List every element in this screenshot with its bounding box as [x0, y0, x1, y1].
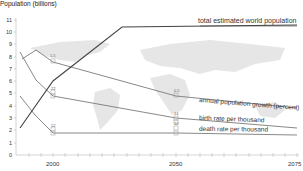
point-label-growth-2000: 1.5 — [50, 53, 56, 58]
label-world-population: total estimated world population — [198, 17, 296, 24]
chart-canvas — [0, 0, 303, 171]
y-tick-label: 11 — [2, 17, 12, 23]
x-tick-label-2000: 2000 — [46, 161, 59, 167]
y-tick-label: 8 — [2, 54, 12, 60]
x-tick-label-2050: 2050 — [169, 161, 182, 167]
y-tick-label: 5 — [2, 90, 12, 96]
y-tick-label: 3 — [2, 115, 12, 121]
point-label-death-2050: 10 — [174, 121, 178, 126]
y-tick-label: 1 — [2, 140, 12, 146]
point-label-death-2000: 12 — [51, 123, 55, 128]
y-axis-title: Population (billions) — [0, 0, 57, 7]
y-tick-label: 6 — [2, 78, 12, 84]
x-tick-label-2075: 2075 — [288, 161, 301, 167]
y-tick-label: 10 — [2, 29, 12, 35]
point-label-birth-2050: 14 — [174, 111, 178, 116]
y-tick-label: 4 — [2, 103, 12, 109]
y-tick-label: 2 — [2, 127, 12, 133]
y-tick-label: 0 — [2, 152, 12, 158]
point-label-growth-2050: 0.5 — [174, 88, 180, 93]
point-label-birth-2000: 22 — [51, 86, 55, 91]
y-tick-label: 9 — [2, 41, 12, 47]
y-tick-label: 7 — [2, 66, 12, 72]
label-death-rate: death rate per thousand — [199, 125, 268, 133]
